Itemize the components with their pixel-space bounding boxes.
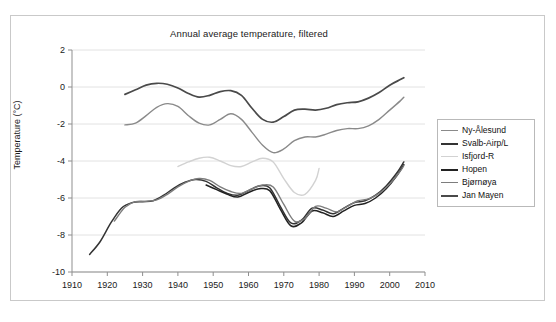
x-tick-labels: 1910192019301940195019601970198019902000… xyxy=(62,280,435,290)
y-tick-labels: 20-2-4-6-8-10 xyxy=(52,45,65,277)
data-series xyxy=(90,78,404,255)
svg-text:-6: -6 xyxy=(57,193,65,203)
svg-text:2000: 2000 xyxy=(380,280,400,290)
series-line xyxy=(178,157,319,195)
legend-item[interactable]: Jan Mayen xyxy=(441,189,530,202)
svg-text:1980: 1980 xyxy=(309,280,329,290)
series-line xyxy=(90,162,404,255)
svg-text:1910: 1910 xyxy=(62,280,82,290)
legend-swatch-line xyxy=(441,130,458,131)
legend-item-label: Bjørnøya xyxy=(462,176,496,189)
legend-item[interactable]: Ny-Ålesund xyxy=(441,124,530,137)
legend-item-label: Svalb-Airp/L xyxy=(462,137,508,150)
legend-item-label: Isfjord-R xyxy=(462,150,494,163)
svg-text:1940: 1940 xyxy=(168,280,188,290)
svg-text:1970: 1970 xyxy=(274,280,294,290)
legend-item-label: Jan Mayen xyxy=(462,189,504,202)
legend-item[interactable]: Svalb-Airp/L xyxy=(441,137,530,150)
svg-text:1990: 1990 xyxy=(344,280,364,290)
legend-swatch-line xyxy=(441,182,458,183)
svg-text:1930: 1930 xyxy=(133,280,153,290)
svg-text:2010: 2010 xyxy=(415,280,435,290)
legend-item-label: Ny-Ålesund xyxy=(462,124,506,137)
svg-text:2: 2 xyxy=(60,45,65,55)
legend-swatch-line xyxy=(441,169,458,171)
series-line xyxy=(125,78,404,123)
chart-legend: Ny-ÅlesundSvalb-Airp/LIsfjord-RHopenBjør… xyxy=(437,119,535,207)
legend-item[interactable]: Hopen xyxy=(441,163,530,176)
legend-item[interactable]: Bjørnøya xyxy=(441,176,530,189)
svg-text:-4: -4 xyxy=(57,156,65,166)
legend-swatch-line xyxy=(441,143,458,145)
svg-text:0: 0 xyxy=(60,82,65,92)
series-line xyxy=(114,166,403,222)
svg-text:-2: -2 xyxy=(57,119,65,129)
legend-item-label: Hopen xyxy=(462,163,487,176)
svg-text:-8: -8 xyxy=(57,230,65,240)
svg-text:1960: 1960 xyxy=(238,280,258,290)
gridlines xyxy=(72,50,425,272)
series-line xyxy=(125,97,404,153)
svg-text:-10: -10 xyxy=(52,267,65,277)
legend-item[interactable]: Isfjord-R xyxy=(441,150,530,163)
svg-text:1920: 1920 xyxy=(97,280,117,290)
legend-swatch-line xyxy=(441,195,458,197)
svg-text:1950: 1950 xyxy=(203,280,223,290)
legend-swatch-line xyxy=(441,156,458,157)
axes xyxy=(68,50,425,276)
